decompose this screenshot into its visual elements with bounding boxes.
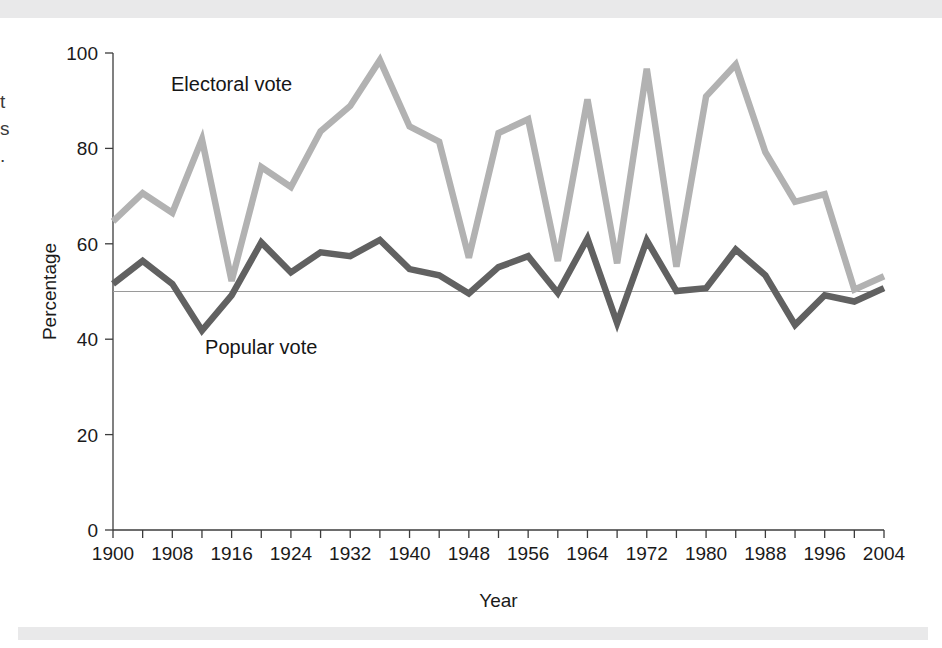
x-tick-label-1948: 1948 xyxy=(448,543,490,564)
chart-figure: t s . 020406080100 190019081916192419321… xyxy=(0,0,942,648)
y-axis-title: Percentage xyxy=(39,243,60,340)
data-series-group xyxy=(113,60,884,330)
y-tick-label-0: 0 xyxy=(87,520,98,541)
x-axis-ticks: 1900190819161924193219401948195619641972… xyxy=(92,530,906,564)
line-chart-plot: 020406080100 190019081916192419321940194… xyxy=(0,0,942,648)
x-tick-label-2004: 2004 xyxy=(863,543,906,564)
x-axis-title: Year xyxy=(479,590,518,611)
y-tick-label-100: 100 xyxy=(66,43,98,64)
x-tick-label-1932: 1932 xyxy=(329,543,371,564)
x-tick-label-1900: 1900 xyxy=(92,543,134,564)
y-axis-ticks: 020406080100 xyxy=(66,43,113,541)
x-tick-label-1908: 1908 xyxy=(151,543,193,564)
x-tick-label-1996: 1996 xyxy=(804,543,846,564)
x-tick-label-1924: 1924 xyxy=(270,543,313,564)
series-label-electoral-vote: Electoral vote xyxy=(171,73,292,95)
y-tick-label-40: 40 xyxy=(77,329,98,350)
x-tick-label-1956: 1956 xyxy=(507,543,549,564)
x-tick-label-1940: 1940 xyxy=(388,543,430,564)
series-label-popular-vote: Popular vote xyxy=(205,336,317,358)
x-tick-label-1972: 1972 xyxy=(626,543,668,564)
x-tick-label-1980: 1980 xyxy=(685,543,727,564)
x-tick-label-1916: 1916 xyxy=(210,543,252,564)
x-tick-label-1964: 1964 xyxy=(566,543,609,564)
x-tick-label-1988: 1988 xyxy=(744,543,786,564)
y-tick-label-20: 20 xyxy=(77,425,98,446)
y-tick-label-80: 80 xyxy=(77,138,98,159)
y-tick-label-60: 60 xyxy=(77,234,98,255)
